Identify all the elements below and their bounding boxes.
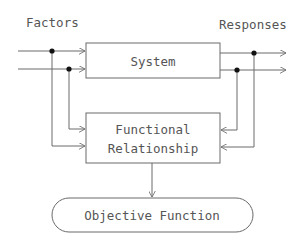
objective-function-pill: Objective Function (52, 198, 253, 232)
junction-dot (49, 48, 54, 53)
functional-relationship-box: Functional Relationship (86, 113, 220, 163)
factor-branch-2 (69, 69, 85, 129)
response-branch-2 (221, 70, 237, 130)
functional-label-line2: Relationship (108, 141, 198, 156)
system-box: System (86, 43, 220, 78)
functional-label-line1: Functional (115, 122, 190, 137)
objective-label: Objective Function (84, 208, 219, 223)
diagram-canvas: Factors Responses System Functional Rela… (0, 0, 301, 243)
factor-inputs (18, 51, 85, 146)
factors-label: Factors (26, 15, 79, 30)
junction-dot (66, 66, 71, 71)
system-label: System (130, 54, 175, 69)
junction-dot (234, 67, 239, 72)
junction-dot (251, 50, 256, 55)
response-outputs (220, 53, 286, 147)
responses-label: Responses (219, 17, 287, 32)
